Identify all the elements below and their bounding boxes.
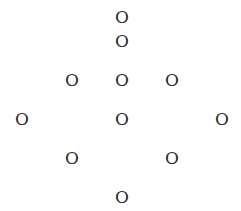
glyph-o: O [165, 150, 179, 167]
glyph-o: O [115, 33, 129, 50]
glyph-o: O [115, 9, 129, 26]
glyph-o: O [65, 150, 79, 167]
glyph-o: O [215, 111, 229, 128]
glyph-o: O [65, 72, 79, 89]
glyph-o: O [165, 72, 179, 89]
glyph-o: O [115, 111, 129, 128]
glyph-o: O [115, 189, 129, 206]
glyph-o: O [115, 72, 129, 89]
glyph-o: O [15, 111, 29, 128]
